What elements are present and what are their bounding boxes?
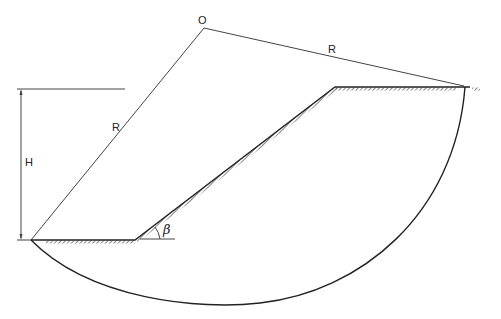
ground-profile xyxy=(31,87,470,240)
crest-ground-hatch-right xyxy=(472,88,480,91)
slip-circle-arc xyxy=(31,87,465,305)
diagram-svg: O R R H β xyxy=(0,0,501,319)
height-label: H xyxy=(25,156,33,168)
arrow-up-icon xyxy=(20,89,23,95)
slope-stability-diagram: O R R H β xyxy=(0,0,501,319)
angle-label: β xyxy=(162,222,171,237)
center-label: O xyxy=(198,14,207,26)
crest-ground-hatch xyxy=(336,88,456,91)
arrow-down-icon xyxy=(20,234,23,240)
radius-left-label: R xyxy=(112,121,120,133)
slope-face-hatch xyxy=(135,87,338,242)
angle-arc xyxy=(155,227,160,239)
radius-line-right xyxy=(204,28,464,86)
radius-right-label: R xyxy=(328,43,336,55)
toe-ground-hatch xyxy=(46,241,135,244)
